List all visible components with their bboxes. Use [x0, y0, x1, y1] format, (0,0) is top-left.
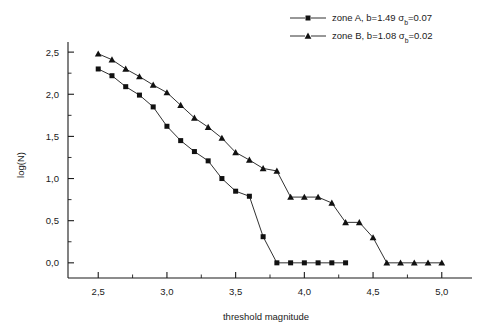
x-tick-label: 3,5: [229, 286, 242, 297]
data-point-marker: [247, 194, 252, 199]
y-tick-label: 2,0: [46, 89, 59, 100]
y-tick-label: 2,5: [46, 47, 59, 58]
data-point-marker: [96, 66, 101, 71]
x-tick-label: 3,0: [160, 286, 173, 297]
data-point-marker: [178, 138, 183, 143]
data-point-marker: [206, 158, 211, 163]
data-point-marker: [151, 104, 156, 109]
data-point-marker: [233, 189, 238, 194]
x-tick-label: 4,0: [298, 286, 311, 297]
data-point-marker: [137, 93, 142, 98]
frequency-magnitude-chart: 2,53,03,54,04,55,0 0,00,51,01,52,02,5 th…: [0, 0, 485, 333]
data-point-marker: [288, 260, 293, 265]
data-point-marker: [274, 260, 279, 265]
data-point-marker: [261, 234, 266, 239]
data-point-marker: [123, 84, 128, 89]
data-point-marker: [316, 260, 321, 265]
data-point-marker: [192, 149, 197, 154]
y-tick-label: 0,5: [46, 215, 59, 226]
data-point-marker: [164, 124, 169, 129]
data-point-marker: [302, 260, 307, 265]
data-point-marker: [219, 176, 224, 181]
x-axis-title: threshold magnitude: [223, 311, 309, 322]
data-point-marker: [329, 260, 334, 265]
y-axis-title: log(N): [15, 152, 26, 178]
y-tick-label: 1,0: [46, 173, 59, 184]
y-tick-label: 1,5: [46, 131, 59, 142]
chart-background: [0, 0, 485, 333]
legend-marker-icon: [306, 16, 311, 21]
y-tick-label: 0,0: [46, 257, 59, 268]
x-tick-label: 2,5: [92, 286, 105, 297]
x-tick-label: 4,5: [366, 286, 379, 297]
data-point-marker: [343, 260, 348, 265]
x-tick-label: 5,0: [435, 286, 448, 297]
data-point-marker: [109, 73, 114, 78]
